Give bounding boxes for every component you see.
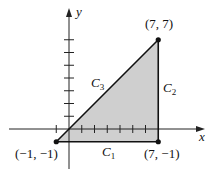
diagram-canvas: y x (7, 7) (−1, −1) (7, −1) C1 C2 C3 [0,0,211,173]
vertex-point [54,139,59,144]
curve-label-c3: C3 [91,75,105,92]
vertex-label-7-neg1: (7, −1) [144,146,180,161]
curve-label-c2: C2 [163,80,176,97]
y-axis-arrow-icon [66,8,72,17]
vertex-label-neg1-neg1: (−1, −1) [15,146,58,161]
vertex-label-7-7: (7, 7) [145,16,173,31]
y-axis-label: y [74,4,82,19]
vertex-point [156,139,161,144]
curve-label-c1: C1 [102,144,115,161]
x-axis-label: x [198,129,205,144]
vertex-point [156,37,161,42]
